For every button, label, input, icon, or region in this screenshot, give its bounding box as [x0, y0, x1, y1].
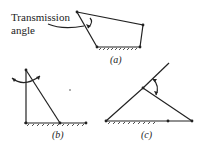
linkage-c	[106, 63, 192, 121]
caption-c: (c)	[141, 129, 152, 140]
caption-b: (b)	[52, 129, 64, 140]
ground-hatch-b	[27, 124, 84, 126]
linkage-b	[12, 70, 86, 123]
transmission-label-line1: Transmission	[11, 12, 70, 23]
ground-hatch-a	[99, 48, 137, 50]
joint-dots	[12, 11, 193, 125]
ground-hatch-c	[108, 122, 155, 124]
caption-a: (a)	[110, 54, 122, 65]
transmission-label-line2: angle	[11, 25, 35, 36]
